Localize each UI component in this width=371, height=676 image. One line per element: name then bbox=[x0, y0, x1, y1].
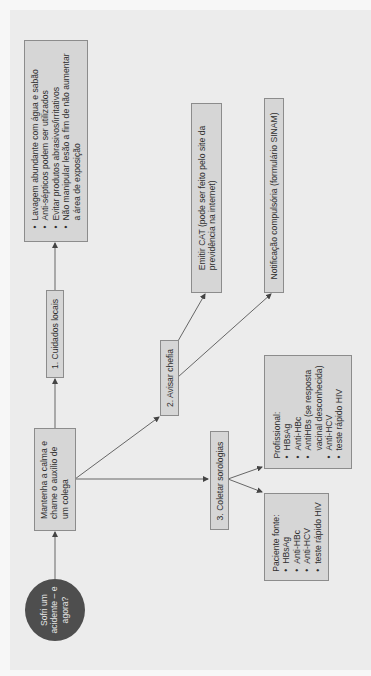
start-line: Sofri um bbox=[39, 587, 49, 634]
list-item: Anti-HBc bbox=[292, 365, 302, 458]
cat-line: previdência na internet) bbox=[207, 126, 217, 270]
calm-line: chame o auxílio de bbox=[50, 441, 60, 519]
step3-serology-node: 3. Coletar sorologias bbox=[210, 431, 229, 530]
professional-text: Profissional: HBsAg Anti-HBc AntiHBs (se… bbox=[272, 365, 345, 458]
source-patient-tests-node: Paciente fonte: HBsAg Anti-HBc Anti-HCV … bbox=[264, 493, 329, 581]
professional-tests-node: Profissional: HBsAg Anti-HBc AntiHBs (se… bbox=[264, 355, 352, 469]
local-care-instructions: Lavagem abundante com água e sabão Anti-… bbox=[24, 40, 88, 242]
source-patient-list: HBsAg Anti-HBc Anti-HCV teste rápido HIV bbox=[281, 502, 323, 572]
arrow-step2-to-cat bbox=[178, 294, 205, 341]
list-item: Lavagem abundante com água e sabão bbox=[30, 53, 40, 228]
arrow-step2-to-notification bbox=[178, 294, 271, 377]
source-patient-text: Paciente fonte: HBsAg Anti-HBc Anti-HCV … bbox=[270, 502, 322, 572]
list-item: AntiHBs (se resposta bbox=[303, 365, 313, 458]
notification-label: Notificação compulsória (formulário SINA… bbox=[269, 112, 279, 279]
list-item: Anti-HCV bbox=[302, 502, 312, 572]
arrow-step3-to-source bbox=[228, 479, 262, 492]
list-item: HBsAg bbox=[281, 502, 291, 572]
calm-node: Mantenha a calma e chame o auxílio de um… bbox=[34, 428, 76, 531]
source-patient-title: Paciente fonte: bbox=[270, 502, 280, 572]
notification-node: Notificação compulsória (formulário SINA… bbox=[264, 98, 284, 293]
calm-line: Mantenha a calma e bbox=[39, 441, 49, 519]
cat-line: Emitir CAT (pode ser feito pelo site da bbox=[196, 126, 206, 270]
list-item: Evitar produtos abrasivos/irritativos bbox=[51, 53, 61, 228]
start-node-text: Sofri um acidente – e agora? bbox=[39, 587, 70, 634]
arrow-step3-to-professional bbox=[228, 467, 262, 479]
start-line: acidente – e bbox=[50, 587, 60, 634]
cat-node: Emitir CAT (pode ser feito pelo site da … bbox=[191, 103, 222, 293]
list-item: Anti-HCV bbox=[324, 365, 334, 458]
professional-list: HBsAg Anti-HBc AntiHBs (se resposta bbox=[282, 365, 313, 458]
professional-list-rest: Anti-HCV teste rápido HIV bbox=[324, 365, 345, 458]
list-item-continuation: vacinal desconhecida) bbox=[313, 365, 323, 458]
step1-local-care-node: 1. Cuidados locais bbox=[46, 290, 64, 378]
calm-node-text: Mantenha a calma e chame o auxílio de um… bbox=[39, 441, 70, 519]
calm-line: um colega bbox=[60, 441, 70, 519]
cat-node-text: Emitir CAT (pode ser feito pelo site da … bbox=[196, 126, 217, 270]
list-item: teste rápido HIV bbox=[312, 502, 322, 572]
list-item: HBsAg bbox=[282, 365, 292, 458]
start-line: agora? bbox=[60, 587, 70, 634]
step2-label: 2. Avisar chefia bbox=[164, 349, 174, 407]
list-item-continuation: a área de exposição bbox=[72, 53, 82, 228]
professional-title: Profissional: bbox=[272, 365, 282, 458]
local-care-list: Lavagem abundante com água e sabão Anti-… bbox=[30, 53, 72, 228]
list-item: Não manipular lesão a fim de não aumenta… bbox=[61, 53, 71, 228]
list-item: teste rápido HIV bbox=[334, 365, 344, 458]
step2-notify-boss-node: 2. Avisar chefia bbox=[160, 340, 179, 416]
start-node: Sofri um acidente – e agora? bbox=[25, 579, 85, 641]
local-care-text: Lavagem abundante com água e sabão Anti-… bbox=[30, 53, 82, 228]
list-item: Anti-sépticos podem ser utilizados bbox=[40, 53, 50, 228]
step3-label: 3. Coletar sorologias bbox=[214, 441, 224, 520]
arrow-calm-to-step2 bbox=[75, 417, 159, 479]
step1-label: 1. Cuidados locais bbox=[50, 299, 60, 369]
list-item: Anti-HBc bbox=[291, 502, 301, 572]
